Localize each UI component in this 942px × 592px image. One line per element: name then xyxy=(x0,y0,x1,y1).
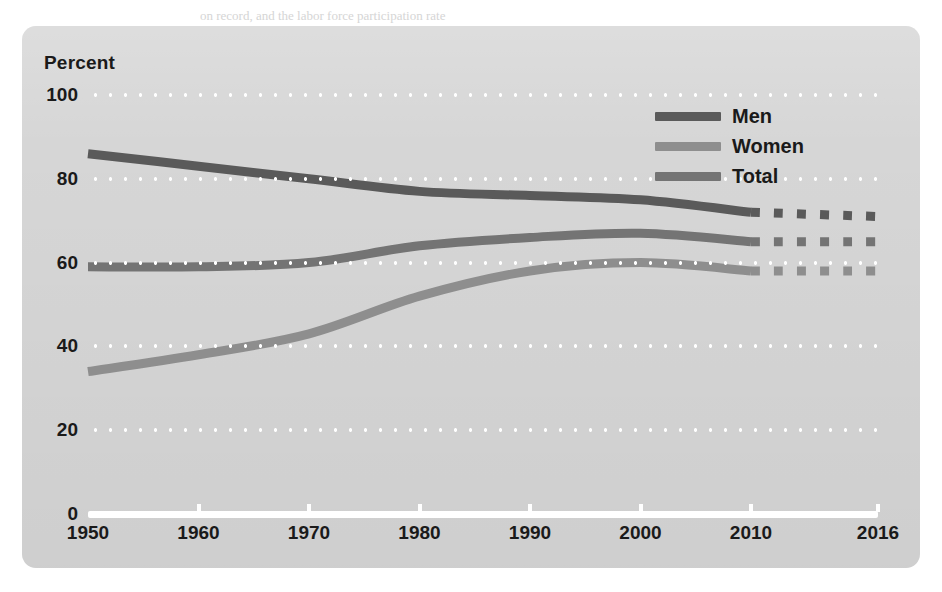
legend-label-total: Total xyxy=(732,166,778,186)
x-axis-label-1970: 1970 xyxy=(288,522,330,544)
x-axis-label-2016: 2016 xyxy=(857,522,899,544)
x-axis-label-2000: 2000 xyxy=(619,522,661,544)
legend-swatch-total xyxy=(655,172,721,181)
line-projected-men xyxy=(751,212,878,216)
y-axis-label-60: 60 xyxy=(57,252,78,274)
gridline-20 xyxy=(88,428,878,432)
x-axis-line xyxy=(88,511,878,518)
gridline-60 xyxy=(88,261,878,265)
legend-item-total: Total xyxy=(655,164,804,188)
legend-swatch-men xyxy=(655,112,721,121)
x-axis-tick-1980 xyxy=(418,504,422,512)
legend-label-men: Men xyxy=(732,106,772,126)
y-axis-label-40: 40 xyxy=(57,335,78,357)
bleed-line: on record, and the labor force participa… xyxy=(200,8,445,24)
legend-swatch-women xyxy=(655,142,721,151)
chart-legend: MenWomenTotal xyxy=(655,104,804,188)
x-axis-tick-1960 xyxy=(197,504,201,512)
x-axis-tick-1990 xyxy=(528,504,532,512)
y-axis-label-80: 80 xyxy=(57,168,78,190)
legend-item-men: Men xyxy=(655,104,804,128)
legend-item-women: Women xyxy=(655,134,804,158)
y-axis-title: Percent xyxy=(44,52,115,74)
line-women xyxy=(88,263,751,372)
x-axis-tick-2010 xyxy=(749,504,753,512)
y-axis-label-100: 100 xyxy=(46,84,78,106)
gridline-100 xyxy=(88,93,878,97)
x-axis-label-1980: 1980 xyxy=(398,522,440,544)
line-men xyxy=(88,154,751,213)
x-axis-label-2010: 2010 xyxy=(730,522,772,544)
x-axis-tick-2000 xyxy=(639,504,643,512)
x-axis-label-1950: 1950 xyxy=(67,522,109,544)
x-axis-tick-1970 xyxy=(307,504,311,512)
legend-label-women: Women xyxy=(732,136,804,156)
y-axis-label-20: 20 xyxy=(57,419,78,441)
x-axis-tick-2016 xyxy=(876,504,880,512)
gridline-40 xyxy=(88,344,878,348)
x-axis-label-1990: 1990 xyxy=(509,522,551,544)
x-axis-label-1960: 1960 xyxy=(177,522,219,544)
